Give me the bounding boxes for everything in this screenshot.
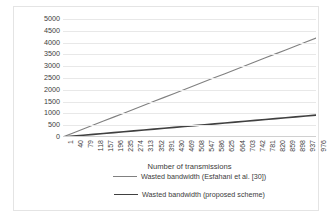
y-axis-tick-labels: 5000450040003500300025002000150010005000	[38, 19, 60, 137]
y-axis-tick-label: 2000	[44, 86, 60, 94]
gridline	[63, 66, 316, 67]
y-axis-tick-label: 3500	[44, 50, 60, 58]
plot-area	[63, 19, 316, 137]
x-axis-tick-label: 118	[97, 140, 104, 151]
x-axis-tick-label: 937	[309, 140, 316, 152]
y-axis-tick-label: 1000	[44, 109, 60, 117]
chart-frame: Wasted bandwidth in symbols 500045004000…	[13, 6, 319, 211]
y-axis-tick-label: 4500	[44, 27, 60, 35]
x-axis-tick-label: 79	[87, 140, 94, 148]
gridline	[63, 78, 316, 79]
legend-item-label: Wasted bandwidth (Esfahani et al. [30])	[141, 172, 266, 181]
x-axis-tick-label: 586	[218, 140, 225, 152]
x-axis-line	[63, 136, 316, 137]
x-axis-tick-label: 547	[208, 140, 215, 152]
legend-item[interactable]: Wasted bandwidth (Esfahani et al. [30])	[63, 167, 316, 185]
x-axis-tick-label: 352	[158, 140, 165, 152]
legend-line-swatch	[114, 194, 138, 195]
y-axis-tick-label: 3000	[44, 62, 60, 70]
x-axis-tick-label: 313	[147, 140, 154, 152]
x-axis-tick-label: 625	[228, 140, 235, 152]
x-axis-tick-label: 820	[279, 140, 286, 152]
x-axis-tick-label: 859	[289, 140, 296, 152]
x-axis-tick-label: 781	[269, 140, 276, 152]
x-axis-tick-label: 703	[249, 140, 256, 152]
x-axis-tick-labels: 1407911815719623527431335239143046950854…	[63, 138, 316, 162]
legend-line-swatch	[113, 176, 137, 177]
x-axis-tick-label: 976	[320, 140, 327, 152]
x-axis-tick-label: 508	[198, 140, 205, 152]
x-axis-tick-label: 196	[117, 140, 124, 152]
y-axis-tick-label: 5000	[44, 15, 60, 23]
x-axis-tick-label: 391	[168, 140, 175, 152]
y-axis-tick-label: 2500	[44, 74, 60, 82]
gridline	[63, 43, 316, 44]
chart-legend: Wasted bandwidth (Esfahani et al. [30])W…	[63, 167, 316, 203]
legend-item[interactable]: Wasted bandwidth (proposed scheme)	[63, 185, 316, 203]
plot-region: Wasted bandwidth in symbols 500045004000…	[63, 19, 316, 137]
x-axis-tick-label: 235	[127, 140, 134, 152]
legend-item-label: Wasted bandwidth (proposed scheme)	[142, 190, 265, 199]
x-axis-tick-label: 664	[239, 140, 246, 152]
x-axis-tick-label: 898	[299, 140, 306, 152]
gridline	[63, 54, 316, 55]
gridline	[63, 102, 316, 103]
y-axis-tick-label: 0	[56, 133, 60, 141]
x-axis-tick-label: 274	[137, 140, 144, 152]
gridline	[63, 90, 316, 91]
y-axis-tick-label: 1500	[44, 98, 60, 106]
gridline	[63, 31, 316, 32]
gridline	[63, 113, 316, 114]
y-axis-tick-label: 4000	[44, 39, 60, 47]
gridline	[63, 125, 316, 126]
x-axis-tick-label: 157	[107, 140, 114, 152]
series-line	[63, 38, 316, 137]
x-axis-tick-label: 40	[77, 140, 84, 148]
x-axis-tick-label: 742	[259, 140, 266, 152]
gridline	[63, 19, 316, 20]
x-axis-tick-label: 430	[178, 140, 185, 152]
x-axis-tick-label: 1	[67, 140, 74, 144]
y-axis-tick-label: 500	[48, 121, 60, 129]
x-axis-tick-label: 469	[188, 140, 195, 152]
